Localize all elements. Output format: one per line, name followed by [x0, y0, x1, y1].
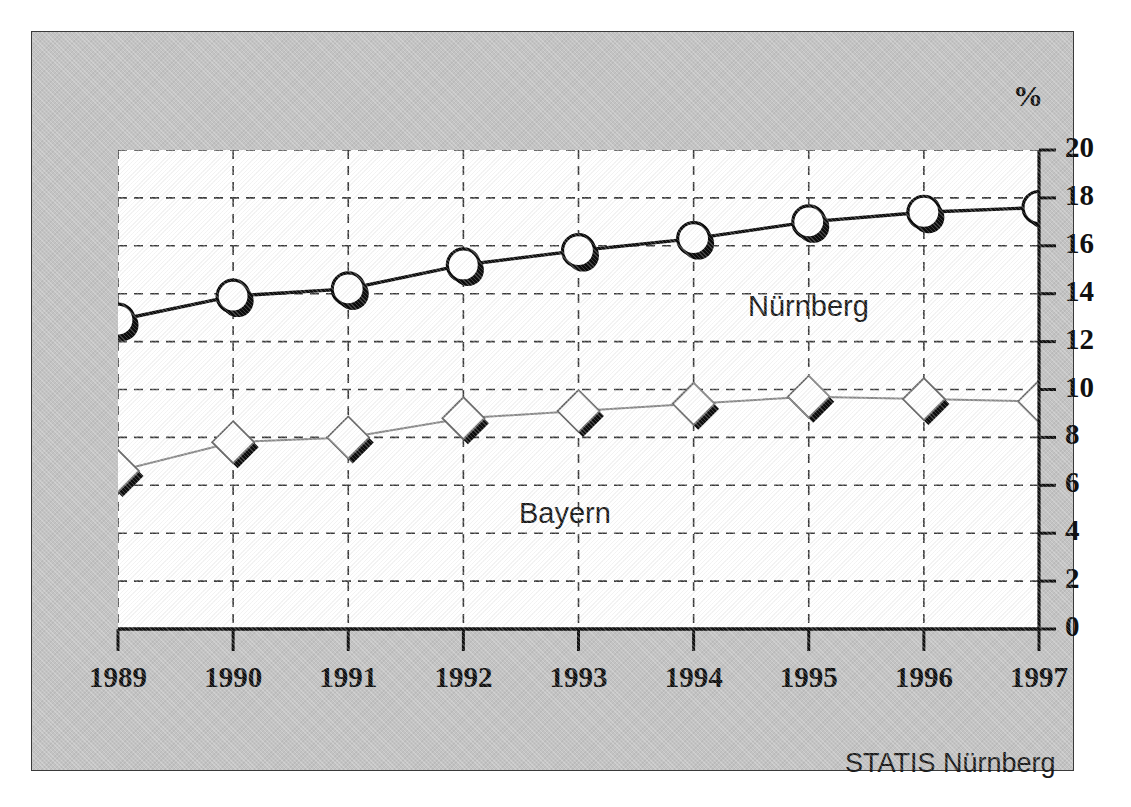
- x-tick-label: 1993: [524, 661, 634, 694]
- plot-canvas: [118, 150, 1039, 629]
- y-axis-ticks: [1039, 150, 1056, 629]
- x-tick-label: 1996: [869, 661, 979, 694]
- x-axis-ticks: [118, 629, 1039, 651]
- y-tick-label: 12: [1065, 323, 1094, 356]
- y-tick-label: 4: [1065, 514, 1080, 547]
- x-tick-label: 1989: [63, 661, 173, 694]
- y-tick-label: 8: [1065, 418, 1080, 451]
- x-tick-label: 1992: [408, 661, 518, 694]
- source-credit: STATIS Nürnberg: [845, 748, 1056, 779]
- x-tick-label: 1995: [754, 661, 864, 694]
- x-tick-label: 1990: [178, 661, 288, 694]
- y-tick-label: 2: [1065, 562, 1080, 595]
- chart-figure: % 20181614121086420 19891990199119921993…: [0, 0, 1131, 807]
- y-tick-label: 14: [1065, 275, 1094, 308]
- y-tick-label: 0: [1065, 610, 1080, 643]
- chart-plate: % 20181614121086420 19891990199119921993…: [31, 31, 1074, 771]
- y-tick-label: 10: [1065, 371, 1094, 404]
- x-tick-label: 1991: [293, 661, 403, 694]
- y-tick-label: 18: [1065, 179, 1094, 212]
- x-tick-label: 1994: [639, 661, 749, 694]
- y-tick-label: 20: [1065, 131, 1094, 164]
- y-tick-label: 16: [1065, 227, 1094, 260]
- plot-area: [118, 150, 1039, 629]
- x-tick-label: 1997: [984, 661, 1094, 694]
- series-label-bayern: Bayern: [519, 497, 611, 530]
- y-axis-unit-label: %: [1013, 79, 1043, 113]
- y-tick-label: 6: [1065, 466, 1080, 499]
- series-label-nuernberg: Nürnberg: [748, 290, 869, 323]
